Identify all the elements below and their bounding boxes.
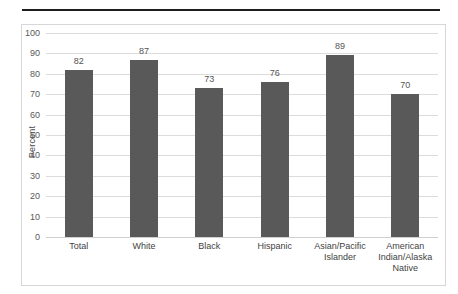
x-axis-category-label: American Indian/Alaska Native [367, 241, 443, 274]
bar[interactable] [130, 60, 158, 237]
chart-frame: Percent 0102030405060708090100 82Total87… [21, 24, 446, 286]
y-axis-tick-label: 80 [10, 69, 40, 79]
y-axis-tick-label: 20 [10, 191, 40, 201]
y-axis-tick-label: 0 [10, 232, 40, 242]
y-axis-tick-label: 100 [10, 28, 40, 38]
chart-page: Percent 0102030405060708090100 82Total87… [0, 0, 458, 294]
bar[interactable] [261, 82, 289, 237]
bar[interactable] [326, 55, 354, 237]
plot-area: 0102030405060708090100 82Total87White73B… [46, 33, 438, 237]
y-axis-tick-label: 30 [10, 171, 40, 181]
bar-value-label: 89 [335, 41, 345, 51]
top-divider-rule [22, 9, 440, 11]
y-axis-tick-label: 60 [10, 110, 40, 120]
y-axis-tick-label: 40 [10, 150, 40, 160]
bar-value-label: 87 [139, 46, 149, 56]
bar-value-label: 82 [74, 56, 84, 66]
bar-value-label: 70 [400, 80, 410, 90]
bar-slot[interactable]: 87White [111, 33, 176, 237]
bar-slot[interactable]: 73Black [177, 33, 242, 237]
bar[interactable] [65, 70, 93, 237]
bar[interactable] [195, 88, 223, 237]
y-axis-tick-label: 50 [10, 130, 40, 140]
y-axis-tick-label: 90 [10, 48, 40, 58]
bar-slot[interactable]: 89Asian/Pacific Islander [307, 33, 372, 237]
y-axis-title: Percent [27, 110, 37, 174]
bar[interactable] [391, 94, 419, 237]
gridline [46, 237, 438, 238]
bar-slot[interactable]: 70American Indian/Alaska Native [373, 33, 438, 237]
bar-value-label: 76 [270, 68, 280, 78]
y-axis-tick-label: 70 [10, 89, 40, 99]
bar-slot[interactable]: 76Hispanic [242, 33, 307, 237]
bar-slot[interactable]: 82Total [46, 33, 111, 237]
bar-value-label: 73 [204, 74, 214, 84]
y-axis-tick-label: 10 [10, 212, 40, 222]
